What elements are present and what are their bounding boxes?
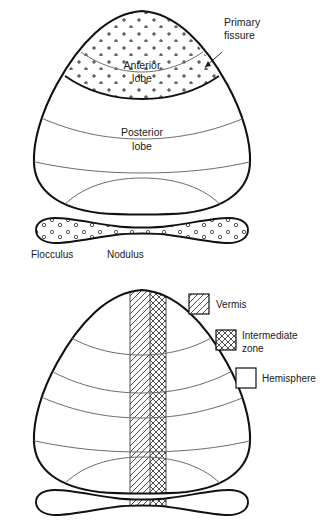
- legend-label-intermediate-line2: zone: [242, 343, 264, 354]
- legend-swatch-vermis: [189, 294, 209, 314]
- primary-fissure-label-line1: Primary: [224, 16, 261, 28]
- anterior-lobe-label-line2: lobe: [132, 72, 152, 84]
- anterior-lobe-label-line1: Anterior: [124, 59, 161, 71]
- cerebellum-figure: Anterior lobe Posterior lobe Primary fis…: [0, 0, 322, 525]
- legend-swatch-hemisphere: [236, 368, 256, 388]
- legend-label-vermis: Vermis: [216, 299, 247, 310]
- legend-label-intermediate-line1: Intermediate: [242, 330, 298, 341]
- nodulus-label: Nodulus: [107, 249, 144, 260]
- primary-fissure-label-line2: fissure: [224, 29, 255, 41]
- flocculus-label: Flocculus: [31, 249, 73, 260]
- legend-swatch-intermediate-zone: [216, 330, 236, 350]
- cerebellum-diagram-svg: Anterior lobe Posterior lobe Primary fis…: [0, 0, 322, 525]
- legend-label-hemisphere: Hemisphere: [262, 373, 316, 384]
- posterior-lobe-label-line2: lobe: [132, 140, 152, 152]
- posterior-lobe-label-line1: Posterior: [121, 126, 164, 138]
